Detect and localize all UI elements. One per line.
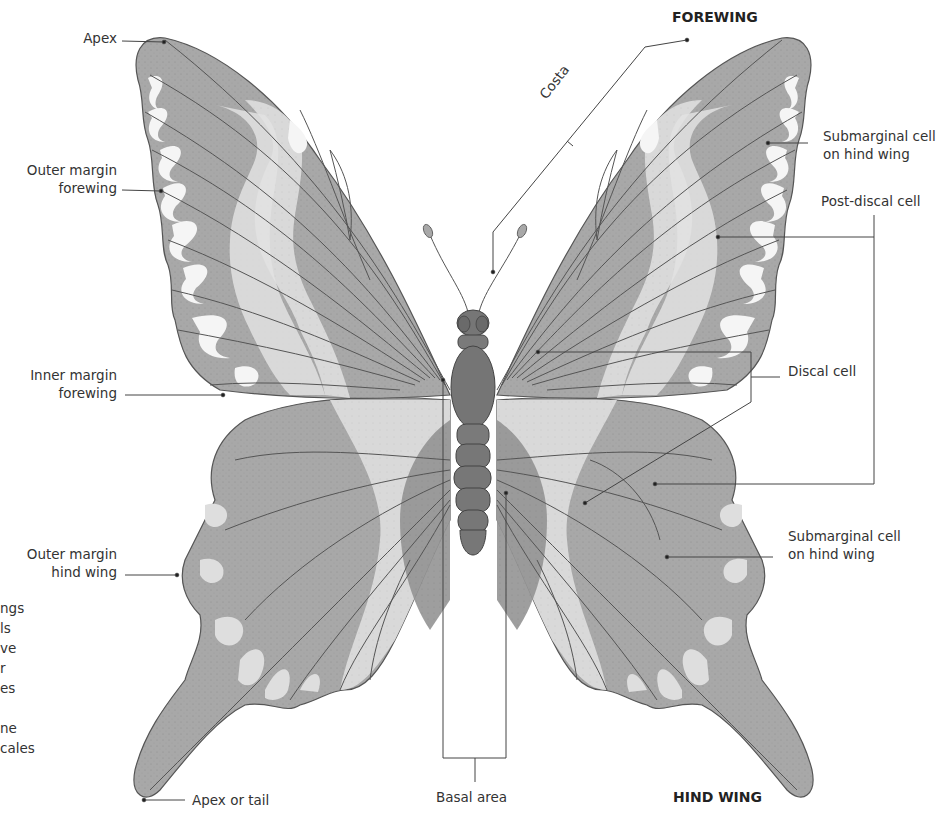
forewing-left <box>136 38 450 399</box>
caption-fragment: es <box>0 680 15 696</box>
label-discal-cell: Discal cell <box>788 363 856 379</box>
caption-fragment: ne <box>0 720 17 736</box>
caption-fragment: ve <box>0 640 16 656</box>
label-submarginal-bottom-line2: on hind wing <box>788 546 875 562</box>
caption-fragment: ngs <box>0 600 24 616</box>
label-inner-margin-forewing-line2: forewing <box>0 385 117 401</box>
caption-fragment: cales <box>0 740 35 756</box>
label-basal-area: Basal area <box>436 789 507 805</box>
label-outer-margin-hind-wing-line1: Outer margin <box>0 546 117 562</box>
hind-wing-right <box>497 397 813 797</box>
label-outer-margin-hind-wing-line2: hind wing <box>0 564 117 580</box>
label-submarginal-top-line1: Submarginal cell <box>823 128 936 144</box>
label-post-discal-cell: Post-discal cell <box>821 193 920 209</box>
hind-wing-left <box>134 397 450 797</box>
label-outer-margin-forewing-line2: forewing <box>0 180 117 196</box>
label-outer-margin-forewing-line1: Outer margin <box>0 162 117 178</box>
label-apex-or-tail: Apex or tail <box>192 792 269 808</box>
butterfly-anatomy-diagram: FOREWING HIND WING Apex Outer margin for… <box>0 0 947 814</box>
cropped-side-caption: ngs ls ve r es ne cales <box>0 600 40 770</box>
heading-hind-wing: HIND WING <box>673 789 762 805</box>
label-inner-margin-forewing-line1: Inner margin <box>0 367 117 383</box>
label-submarginal-bottom-line1: Submarginal cell <box>788 528 901 544</box>
label-submarginal-top-line2: on hind wing <box>823 146 910 162</box>
butterfly-illustration <box>0 0 947 814</box>
caption-fragment: r <box>0 660 6 676</box>
caption-fragment: ls <box>0 620 11 636</box>
label-apex: Apex <box>60 30 117 46</box>
heading-forewing: FOREWING <box>672 9 758 25</box>
